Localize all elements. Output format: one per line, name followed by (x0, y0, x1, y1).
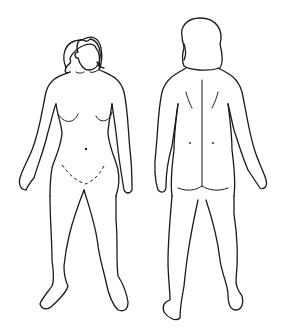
front-body-figure (19, 37, 132, 311)
body-diagram (0, 0, 283, 328)
back-body-figure (155, 18, 267, 320)
